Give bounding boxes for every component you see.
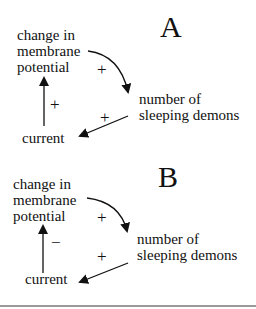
diagram-panel-a: A change in membrane potential number of… (0, 0, 256, 150)
arrow-demons-to-current (80, 263, 128, 282)
arrow-demons-to-current (80, 116, 128, 136)
arrow-potential-to-demons (88, 51, 128, 92)
bottom-divider (0, 305, 256, 307)
diagram-panel-b: B change in membrane potential number of… (0, 150, 256, 300)
arrows-layer (0, 150, 256, 300)
arrow-potential-to-demons (87, 198, 127, 231)
arrows-layer (0, 0, 256, 150)
